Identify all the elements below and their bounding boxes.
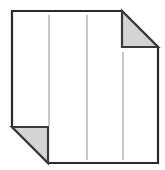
bottom-left-fold-icon — [12, 127, 48, 163]
document-icon-canvas — [0, 0, 165, 170]
document-icon-svg — [0, 0, 165, 170]
top-right-fold-icon — [122, 11, 158, 47]
